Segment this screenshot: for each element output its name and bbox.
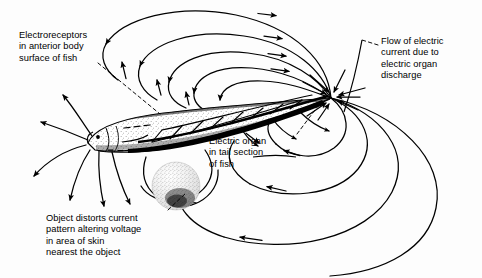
label-electroreceptors: Electroreceptors in anterior body surfac… [19, 30, 87, 64]
fish-eye [96, 135, 100, 139]
label-object-distortion: Object distorts current pattern altering… [46, 213, 141, 259]
label-current-flow: Flow of electric current due to electric… [381, 36, 443, 82]
label-electric-organ: Electric organ in tail section of fish [209, 136, 266, 170]
figure-canvas: Electroreceptors in anterior body surfac… [0, 0, 482, 278]
distorting-object-sphere [152, 162, 200, 210]
